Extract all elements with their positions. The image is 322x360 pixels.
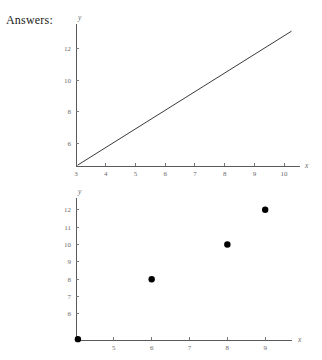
line-chart-x-tick-label: 5 <box>134 170 138 178</box>
scatter-chart-y-tick-label: 7 <box>68 293 72 301</box>
line-chart-x-tick-label: 8 <box>223 170 227 178</box>
line-chart-y-tick-label: 10 <box>64 77 72 85</box>
scatter-chart-x-tick-label: 5 <box>112 344 116 352</box>
line-chart-ylabel: y <box>77 13 82 22</box>
scatter-chart-y-tick-label: 9 <box>68 258 72 266</box>
line-chart-x-tick-label: 9 <box>253 170 257 178</box>
scatter-chart-y-tick-label: 11 <box>64 224 71 232</box>
line-chart-figure: xy456789103681012 <box>0 0 322 180</box>
scatter-chart-data-point <box>262 207 268 213</box>
scatter-chart-data-point <box>75 336 81 342</box>
line-chart-x-tick-label: 6 <box>163 170 167 178</box>
line-chart-y-tick-label: 8 <box>68 108 72 116</box>
line-chart-y-tick-label: 6 <box>68 140 72 148</box>
line-chart-xlabel: x <box>304 161 309 170</box>
line-chart-y-tick-label: 12 <box>64 45 72 53</box>
line-chart-origin-label: 3 <box>74 170 78 178</box>
line-chart-series <box>77 31 291 165</box>
scatter-chart-x-tick-label: 7 <box>188 344 192 352</box>
answers-page: Answers: xy456789103681012 xy56789678910… <box>0 0 322 360</box>
scatter-chart-data-point <box>224 241 230 247</box>
scatter-chart-xlabel: x <box>297 335 302 344</box>
scatter-chart-figure: xy567896789101112 <box>0 180 322 360</box>
line-chart-x-tick-label: 10 <box>281 170 289 178</box>
scatter-chart-data-point <box>148 276 154 282</box>
scatter-chart-y-tick-label: 12 <box>64 206 72 214</box>
scatter-chart-x-tick-label: 9 <box>263 344 267 352</box>
scatter-chart-ylabel: y <box>77 187 82 196</box>
scatter-chart-x-tick-label: 6 <box>150 344 154 352</box>
line-chart-svg: xy456789103681012 <box>0 0 322 180</box>
line-chart-x-tick-label: 4 <box>104 170 108 178</box>
scatter-chart-x-tick-label: 8 <box>226 344 230 352</box>
scatter-chart-y-tick-label: 8 <box>68 276 72 284</box>
line-chart-x-tick-label: 7 <box>193 170 197 178</box>
scatter-chart-y-tick-label: 10 <box>64 241 72 249</box>
scatter-chart-svg: xy567896789101112 <box>0 180 322 360</box>
scatter-chart-y-tick-label: 6 <box>68 310 72 318</box>
